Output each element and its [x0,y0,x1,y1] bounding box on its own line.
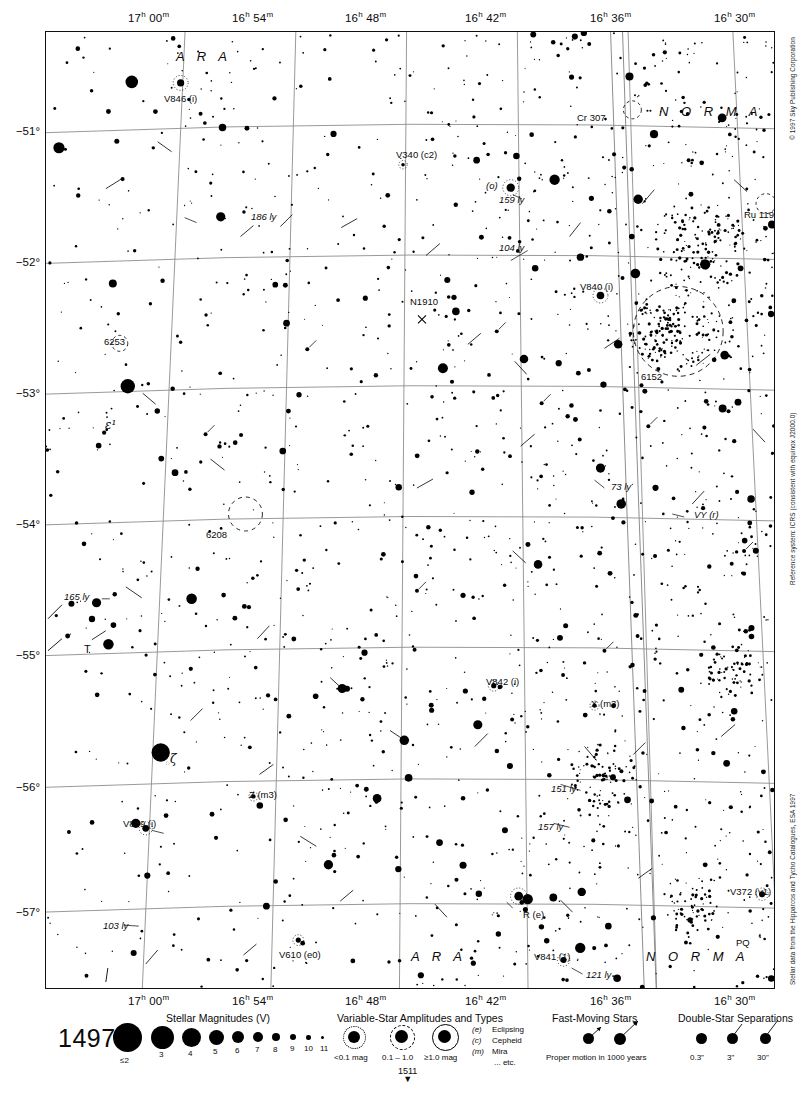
magnitude-label-8: 8 [273,1045,277,1054]
magnitude-label-7: 7 [255,1045,259,1054]
variable-type-code-2: (m) [472,1047,484,1056]
label-ngc6253: 6253 [104,337,125,347]
variable-type-name-3: ... etc. [494,1058,516,1067]
ra-tick-top-2: 16h 48m [345,10,386,24]
legend-magnitudes-title: Stellar Magnitudes (V) [166,1012,270,1024]
legend-fast-moving-caption: Proper motion in 1000 years [546,1053,647,1062]
down-arrow-icon: ▼ [398,1076,417,1082]
label-v610: V610 (e0) [279,950,321,960]
magnitude-dot-4 [182,1028,201,1047]
magnitude-label-9: 9 [290,1044,294,1053]
constellation-norma-top: N O R M A [659,105,762,118]
label-z-m3: Z (m3) [249,790,277,800]
label-v842: V842 (i) [486,677,519,687]
dec-tick-1: −52° [0,256,40,268]
double-separation-label-2: 3" [727,1053,734,1062]
label-104ly: 104 ly [499,243,524,253]
label-103ly: 103 ly [103,921,128,931]
label-151ly: 151 ly [551,784,576,794]
magnitude-label-3: 3 [159,1050,163,1059]
dec-tick-3: −54° [0,518,40,530]
ra-tick-top-0: 17h 00m [128,10,169,24]
label-165ly: 165 ly [64,592,89,602]
magnitude-label-2: ≤2 [120,1056,129,1065]
dec-tick-4: −55° [0,649,40,661]
magnitude-dot-9 [290,1034,296,1040]
label-pq: PQ [736,938,750,948]
ra-tick-top-5: 16h 30m [714,10,755,24]
variable-amplitude-dot-2 [395,1030,408,1043]
proper-motion-vectors [575,1018,645,1050]
label-v340: V340 (c2) [396,150,437,160]
label-v849: V849 (i) [123,819,156,829]
magnitude-dot-10 [306,1035,311,1040]
dec-tick-5: −56° [0,781,40,793]
label-v372: V372 (v1) [730,887,771,897]
label-ngc6208: 6208 [206,530,227,540]
reference-system-text: Reference system: ICRS (consistent with … [789,412,796,585]
label-v841: V841 (1) [534,952,570,962]
label-epsilon1: ε¹ [105,419,116,431]
label-ngc6152: 6152 [641,372,662,382]
variable-type-code-1: (c) [472,1036,481,1045]
variable-type-name-2: Mira [492,1047,508,1056]
variable-amplitude-dot-3 [438,1030,451,1043]
variable-amplitude-label-1: <0.1 mag [334,1053,368,1062]
ra-tick-top-1: 16h 54m [232,10,273,24]
label-73ly: 73 ly [611,482,631,492]
double-separation-label-3: 30" [757,1053,769,1062]
data-source-text: Stellar data from the Hipparcos and Tych… [789,793,796,985]
label-x-m3: X (m3) [591,699,620,709]
ra-tick-top-4: 16h 36m [590,10,631,24]
magnitude-dot-7 [253,1032,263,1042]
chart-number: 1497 [58,1024,116,1053]
label-v840: V840 (i) [580,282,613,292]
variable-type-name-1: Cepheid [492,1036,522,1045]
label-121ly: 121 ly [586,970,611,980]
label-vy-r: VY (r) [694,510,719,520]
magnitude-label-5: 5 [213,1047,217,1056]
magnitude-dot-3 [151,1026,174,1049]
variable-amplitude-label-2: 0.1 – 1.0 [382,1053,413,1062]
variable-type-name-0: Eclipsing [492,1025,524,1034]
magnitude-dot-5 [209,1030,224,1045]
magnitude-label-6: 6 [235,1046,239,1055]
label-cr307: Cr 307 [577,113,606,123]
label-159ly: 159 ly [499,195,524,205]
constellation-ara-bottom: A R A [411,950,467,963]
magnitude-dot-8 [272,1033,280,1041]
dec-tick-6: −57° [0,906,40,918]
label-ru119: Ru 119 [744,210,774,220]
star-chart-area[interactable]: A R A N O R M A A R A N O R M A V846 (i)… [45,31,775,989]
double-separation-vectors [690,1016,790,1050]
label-186ly: 186 ly [251,212,276,222]
dec-tick-2: −53° [0,387,40,399]
magnitude-dot-6 [232,1031,244,1043]
label-zeta: ζ [170,753,177,765]
label-n1910: N1910 [410,297,438,307]
magnitude-dot-2 [113,1023,142,1052]
label-omicron: (o) [486,181,498,191]
copyright-text: © 1997 Sky Publishing Corporation [789,37,796,140]
adjacent-chart-pointer[interactable]: 1511 ▼ [398,1066,417,1082]
constellation-norma-bottom: N O R M A [646,950,749,963]
constellation-ara-top: A R A [176,50,232,63]
legend-bar: 1497 Stellar Magnitudes (V) ≤2 3 4 5 6 7… [0,1000,806,1096]
ra-tick-top-3: 16h 42m [465,10,506,24]
label-r-e: R (e) [523,910,544,920]
double-separation-label-1: 0.3" [690,1053,704,1062]
variable-amplitude-label-3: ≥1.0 mag [424,1053,457,1062]
legend-variables-title: Variable-Star Amplitudes and Types [337,1012,503,1024]
label-157ly: 157 ly [538,822,563,832]
star-field-svg [46,32,774,988]
label-t-star: T [84,644,91,655]
variable-type-code-0: (e) [472,1025,482,1034]
magnitude-dot-11 [321,1036,324,1039]
variable-amplitude-dot-1 [348,1031,360,1043]
magnitude-label-4: 4 [188,1049,192,1058]
magnitude-label-10: 10 [304,1044,313,1053]
label-v846: V846 (i) [164,94,197,104]
magnitude-label-11: 11 [320,1044,328,1053]
dec-tick-0: −51° [0,125,40,137]
